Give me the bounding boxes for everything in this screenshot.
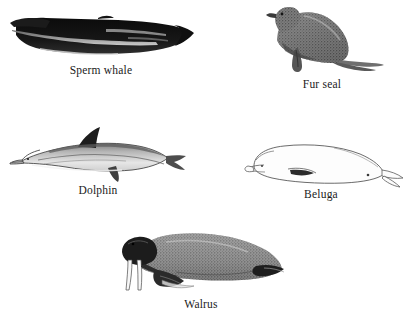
sperm-whale-illustration [6, 6, 196, 64]
figure-fur-seal: Fur seal [252, 2, 392, 98]
marine-mammals-plate: Sperm whale [0, 0, 406, 324]
figure-label-sperm-whale: Sperm whale [6, 64, 196, 76]
dolphin-illustration [8, 122, 188, 186]
walrus-illustration [106, 222, 296, 298]
figure-label-walrus: Walrus [106, 298, 296, 310]
figure-sperm-whale: Sperm whale [6, 6, 196, 86]
figure-walrus: Walrus [106, 222, 296, 322]
fur-seal-illustration [252, 2, 392, 78]
figure-label-dolphin: Dolphin [8, 184, 188, 196]
figure-beluga: Beluga [238, 140, 404, 212]
figure-label-fur-seal: Fur seal [252, 78, 392, 90]
beluga-illustration [238, 140, 404, 190]
figure-dolphin: Dolphin [8, 122, 188, 208]
figure-label-beluga: Beluga [238, 188, 404, 200]
